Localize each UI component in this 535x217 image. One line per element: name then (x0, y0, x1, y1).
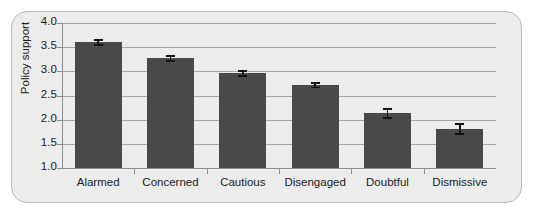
error-bar-cap-bottom (311, 87, 320, 89)
error-bar-cap-top (311, 82, 320, 84)
error-bar (454, 123, 466, 135)
error-bar-cap-bottom (238, 75, 247, 77)
error-bar-cap-top (383, 108, 392, 110)
error-bar (382, 108, 394, 119)
y-axis-tick-label: 3.0 (5, 63, 57, 75)
gridline (62, 71, 496, 72)
y-axis-tick-mark (57, 168, 62, 169)
bar (219, 73, 266, 168)
y-axis-tick-label: 3.5 (5, 39, 57, 51)
gridline (62, 144, 496, 145)
y-axis-tick-label: 1.0 (5, 160, 57, 172)
y-axis-title: Policy support (19, 3, 31, 113)
y-axis-tick-label: 2.0 (5, 112, 57, 124)
x-axis-tick-mark (424, 169, 425, 174)
x-axis-tick-label: Concerned (134, 176, 206, 188)
bar (436, 129, 483, 168)
error-bar (165, 55, 177, 62)
gridline (62, 96, 496, 97)
x-axis-tick-mark (207, 169, 208, 174)
bar (364, 113, 411, 168)
error-bar-cap-top (238, 70, 247, 72)
chart-figure: 1.01.52.02.53.03.54.0 Policy support Ala… (0, 0, 535, 217)
error-bar-cap-bottom (166, 60, 175, 62)
x-axis-tick-label: Alarmed (62, 176, 134, 188)
x-axis-tick-label: Cautious (207, 176, 279, 188)
error-bar-cap-bottom (455, 133, 464, 135)
y-axis-tick-label: 1.5 (5, 136, 57, 148)
y-axis-tick-label: 2.5 (5, 88, 57, 100)
x-axis-tick-mark (279, 169, 280, 174)
y-axis-line (62, 23, 63, 169)
y-axis-tick-mark (57, 47, 62, 48)
plot-area (62, 23, 496, 168)
y-axis-tick-mark (57, 71, 62, 72)
x-axis-tick-mark (134, 169, 135, 174)
gridline (62, 23, 496, 24)
y-axis-tick-mark (57, 23, 62, 24)
y-axis-tick-mark (57, 144, 62, 145)
x-axis-tick-label: Doubtful (351, 176, 423, 188)
error-bar-cap-top (94, 39, 103, 41)
error-bar-cap-top (455, 123, 464, 125)
error-bar (309, 82, 321, 88)
x-axis-tick-label: Dismissive (424, 176, 496, 188)
y-axis-tick-mark (57, 120, 62, 121)
error-bar (237, 70, 249, 77)
x-axis-tick-label: Disengaged (279, 176, 351, 188)
y-axis-tick-label: 4.0 (5, 15, 57, 27)
error-bar (92, 39, 104, 46)
error-bar-cap-top (166, 55, 175, 57)
x-axis-tick-mark (351, 169, 352, 174)
bar (75, 42, 122, 168)
error-bar-cap-bottom (94, 44, 103, 46)
bar (147, 58, 194, 168)
bar (292, 85, 339, 168)
y-axis-tick-mark (57, 96, 62, 97)
gridline (62, 120, 496, 121)
error-bar-cap-bottom (383, 117, 392, 119)
gridline (62, 47, 496, 48)
